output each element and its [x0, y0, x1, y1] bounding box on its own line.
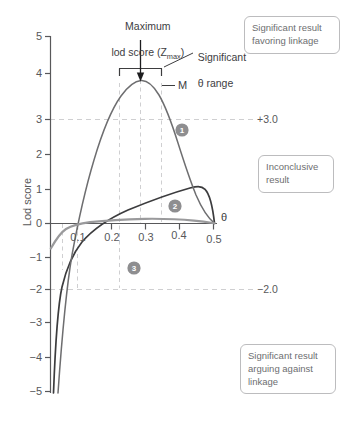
y-tick-label-1: 1	[22, 183, 42, 196]
callout-against-linkage-line3: linkage	[248, 376, 278, 387]
x-tick-label-0-2: 0.2	[98, 231, 126, 244]
y-tick-label-4: 4	[22, 67, 42, 80]
threshold-label-plus3: +3.0	[257, 113, 278, 125]
callout-against-linkage: Significant result arguing against linka…	[240, 344, 336, 394]
y-tick-label-0: 0	[22, 217, 42, 230]
callout-favoring-linkage-line1: Significant result	[252, 22, 322, 33]
figure-root: Lod score 5 4 3 2 1 0 −1 −2 −3 −4 −5 0.1…	[0, 0, 348, 423]
curve-1-badge: 1	[176, 124, 189, 137]
y-tick-label-3: 3	[22, 113, 42, 126]
callout-against-linkage-line1: Significant result	[248, 350, 318, 361]
x-tick-label-0-3: 0.3	[132, 231, 160, 244]
peak-marker-label: M	[178, 79, 187, 92]
x-tick-label-0-5: 0.5	[200, 233, 228, 246]
x-axis-symbol-theta: θ	[221, 211, 227, 224]
x-tick-label-0-1: 0.1	[64, 231, 92, 244]
y-axis-label: Lod score	[21, 157, 33, 247]
y-tick-label-neg2: −2	[17, 283, 42, 296]
y-tick-label-5: 5	[22, 30, 42, 43]
theta-range-line1: Significant	[198, 51, 246, 63]
theta-range-line2: θ range	[198, 77, 234, 89]
zmax-annotation: Maximum lod score (Zmax)	[92, 7, 192, 75]
curve-2-badge: 2	[169, 200, 182, 213]
callout-favoring-linkage-line2: favoring linkage	[252, 35, 319, 46]
y-tick-label-neg5: −5	[17, 385, 42, 398]
zmax-annotation-line2-end: )	[181, 46, 185, 58]
y-ticks	[45, 37, 51, 392]
gridlines	[50, 80, 253, 290]
callout-against-linkage-line2: arguing against	[248, 363, 313, 374]
callout-inconclusive: Inconclusive result	[258, 155, 334, 193]
callout-inconclusive-line2: result	[266, 174, 289, 185]
curve-3-badge: 3	[128, 262, 141, 275]
callout-favoring-linkage: Significant result favoring linkage	[244, 16, 340, 54]
x-tick-label-0-4: 0.4	[165, 229, 193, 242]
y-tick-label-neg1: −1	[17, 251, 42, 264]
y-tick-label-neg4: −4	[17, 351, 42, 364]
callout-inconclusive-line1: Inconclusive	[266, 161, 318, 172]
y-tick-label-neg3: −3	[17, 316, 42, 329]
zmax-annotation-line2: lod score (Z	[111, 46, 166, 58]
y-tick-label-2: 2	[22, 148, 42, 161]
zmax-annotation-sub: max	[167, 52, 181, 61]
zmax-annotation-line1: Maximum	[125, 20, 171, 32]
threshold-label-minus2: −2.0	[257, 283, 278, 295]
